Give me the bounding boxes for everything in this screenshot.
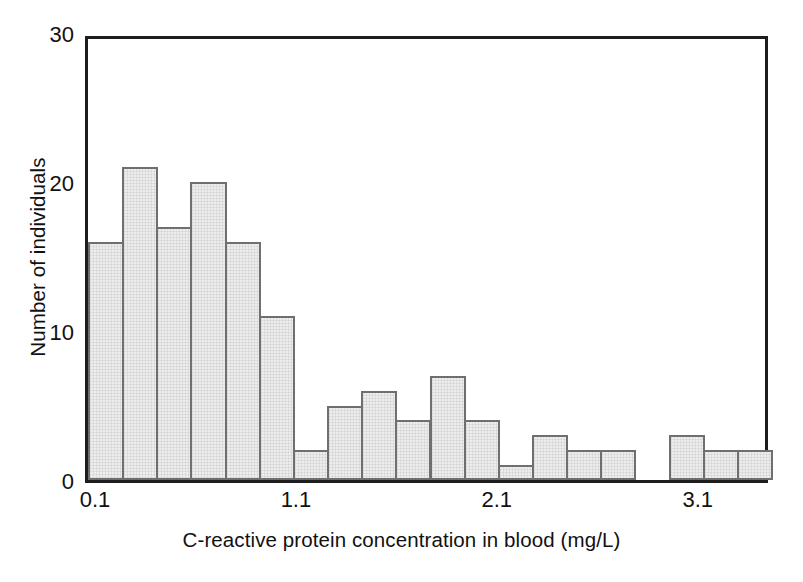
histogram-bar [395, 420, 431, 480]
histogram-bar [225, 242, 261, 480]
x-axis-tick-labels: 0.11.12.13.1 [85, 489, 768, 521]
plot-area [85, 36, 768, 483]
histogram-bar [669, 435, 705, 480]
histogram-bar [88, 242, 124, 480]
histogram-bar [498, 465, 534, 480]
histogram-figure: Number of individuals 3020100 0.11.12.13… [0, 0, 803, 582]
x-axis-title: C-reactive protein concentration in bloo… [0, 528, 803, 552]
x-axis-tick-label: 3.1 [658, 489, 738, 511]
histogram-bar [361, 391, 397, 480]
histogram-bar [464, 420, 500, 480]
histogram-bar [566, 450, 602, 480]
histogram-bar [737, 450, 773, 480]
histogram-bar [293, 450, 329, 480]
histogram-bar [430, 376, 466, 480]
x-axis-tick-label: 2.1 [457, 489, 537, 511]
histogram-bar [259, 316, 295, 480]
histogram-bar [122, 167, 158, 480]
histogram-bar [190, 182, 226, 480]
histogram-bar [532, 435, 568, 480]
y-axis-tick-label: 20 [16, 173, 74, 195]
y-axis-tick-label: 10 [16, 322, 74, 344]
bar-series [88, 39, 765, 480]
histogram-bar [600, 450, 636, 480]
x-axis-tick-label: 1.1 [256, 489, 336, 511]
histogram-bar [327, 406, 363, 481]
histogram-bar [156, 227, 192, 480]
x-axis-tick-label: 0.1 [55, 489, 135, 511]
histogram-bar [703, 450, 739, 480]
y-axis-tick-label: 30 [16, 24, 74, 46]
